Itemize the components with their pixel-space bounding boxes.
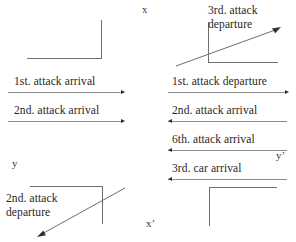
axis-label-x-prime: x’ bbox=[146, 218, 155, 229]
diagram-canvas: x 3rd. attack departure 1st. attack arri… bbox=[0, 0, 296, 242]
second-attack-departure-note-line-1: 2nd. attack bbox=[6, 192, 58, 206]
second-attack-departure-note: 2nd. attack departure bbox=[6, 192, 58, 219]
bottom-right-axis-horizontal bbox=[209, 187, 277, 188]
bottom-right-axis-vertical bbox=[209, 187, 210, 226]
second-attack-departure-note-line-2: departure bbox=[6, 206, 58, 220]
